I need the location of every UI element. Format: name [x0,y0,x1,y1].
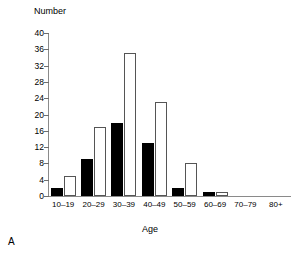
y-tick-label: 40 [4,29,44,38]
figure-panel-a: Number 0481216202428323640 10–1920–2930–… [0,0,300,259]
y-tick-label: 36 [4,45,44,54]
y-tick-label: 8 [4,159,44,168]
y-tick-label: 16 [4,127,44,136]
y-tick-label: 20 [4,111,44,120]
bar-2029-hollow [94,127,106,196]
bars-layer [48,33,291,196]
x-axis-title: Age [0,224,300,234]
bar-5059-solid [172,188,184,196]
x-tick-label: 70–79 [230,200,260,209]
bar-6069-hollow [216,192,228,196]
bar-1019-hollow [64,176,76,196]
x-tick-label: 80+ [261,200,291,209]
x-tick-label: 20–29 [78,200,108,209]
x-tick-label: 50–59 [170,200,200,209]
y-tick-label: 4 [4,176,44,185]
x-tick-label: 10–19 [48,200,78,209]
y-tick-label: 12 [4,143,44,152]
x-tick-label: 30–39 [109,200,139,209]
y-tick-label: 32 [4,62,44,71]
y-axis-title: Number [34,6,66,17]
bar-2029-solid [81,159,93,196]
bar-4049-solid [142,143,154,196]
y-tick-mark [44,196,49,197]
bar-1019-solid [51,188,63,196]
y-tick-label: 24 [4,94,44,103]
bar-4049-hollow [155,102,167,196]
bar-6069-solid [203,192,215,196]
bar-3039-solid [111,123,123,196]
panel-letter: A [8,236,15,247]
x-axis-line [48,196,291,197]
bar-3039-hollow [124,53,136,196]
x-tick-label: 60–69 [200,200,230,209]
x-tick-label: 40–49 [139,200,169,209]
bar-5059-hollow [185,163,197,196]
y-tick-label: 0 [4,192,44,201]
y-tick-label: 28 [4,78,44,87]
